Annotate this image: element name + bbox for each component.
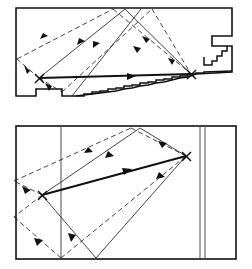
upper-plan-svg — [0, 0, 252, 116]
upper-room-outline — [16, 8, 232, 96]
upper-plan-figure — [0, 0, 252, 116]
diagram-sheet — [0, 0, 252, 269]
lower-plan-figure — [0, 116, 252, 269]
lower-plan-svg — [0, 116, 252, 269]
